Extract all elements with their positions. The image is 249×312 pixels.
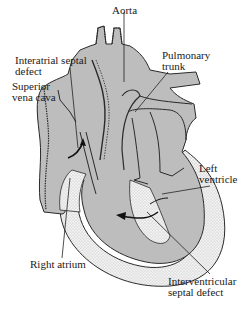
label-pulmonary-trunk-line2: trunk xyxy=(162,61,185,72)
label-right-atrium: Right atrium xyxy=(30,259,86,270)
heart-diagram: Aorta Pulmonary trunk Interatrial septal… xyxy=(0,0,249,312)
label-superior-vena-cava-line2: vena cava xyxy=(12,92,56,103)
label-interatrial-septal-defect-line2: defect xyxy=(15,66,42,77)
label-left-ventricle-line2: ventricle xyxy=(199,174,237,185)
label-aorta: Aorta xyxy=(112,5,137,16)
label-interventricular-septal-defect-line2: septal defect xyxy=(168,287,223,298)
